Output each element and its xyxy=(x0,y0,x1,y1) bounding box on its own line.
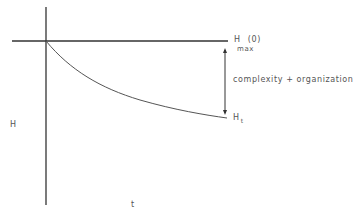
diagram-canvas xyxy=(0,0,356,220)
arrow-label: complexity + organization xyxy=(233,76,354,84)
arrow-head-up-icon xyxy=(223,48,227,53)
h-max-sub: max xyxy=(237,46,254,53)
h-max-label: H (0) xyxy=(234,36,261,44)
entropy-curve xyxy=(46,41,227,118)
h-max-main: H xyxy=(234,35,241,44)
h-t-main: H xyxy=(233,113,240,122)
h-t-label: Ht xyxy=(233,114,244,122)
h-t-sub: t xyxy=(241,117,244,124)
arrow-head-down-icon xyxy=(223,110,227,115)
h-max-paren: (0) xyxy=(248,35,261,44)
y-axis-label: H xyxy=(10,121,17,129)
x-axis-label: t xyxy=(131,201,135,209)
